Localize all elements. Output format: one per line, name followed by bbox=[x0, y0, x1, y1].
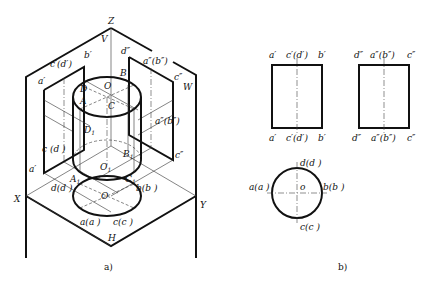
figure-b-orthographic: a′ c′(d′) b′ a′ c′(d′) b′ d″ a″(b″) c″ d… bbox=[249, 50, 416, 272]
point-o-label: O bbox=[104, 81, 112, 91]
h-label-cc1: c(c ) bbox=[113, 217, 133, 227]
point-o1-label: O1 bbox=[100, 162, 111, 173]
axis-y-label: Y bbox=[200, 200, 207, 210]
point-a-label: A bbox=[79, 96, 87, 106]
plane-frame-top-right bbox=[111, 28, 152, 51]
v-label-c1d1: c (d ) bbox=[42, 144, 66, 154]
w-label-c1: c″ bbox=[175, 150, 184, 160]
top-label-o: o bbox=[300, 182, 306, 192]
w-label-d: d″ bbox=[121, 46, 131, 56]
front-top-b: b′ bbox=[318, 50, 326, 60]
side-bottom-d1: d″ bbox=[352, 133, 362, 143]
plane-h-label: H bbox=[107, 233, 116, 243]
front-top-cd: c′(d′) bbox=[286, 50, 308, 60]
h-label-aa1: a(a ) bbox=[80, 217, 101, 227]
top-label-d: d(d ) bbox=[300, 158, 322, 168]
h-label-o: O bbox=[101, 191, 109, 201]
point-c1-label: C1 bbox=[125, 174, 136, 185]
v-label-a: a′ bbox=[38, 76, 45, 86]
side-top-ab: a″(b″) bbox=[370, 50, 395, 60]
front-bottom-c1d1: c′(d′) bbox=[286, 133, 308, 143]
point-b-label: B bbox=[119, 68, 127, 78]
top-label-c: c(c ) bbox=[300, 222, 320, 232]
plane-v-label: V bbox=[101, 34, 109, 44]
w-label-ab: a″(b″) bbox=[143, 56, 168, 66]
w-label-a1b1: a″(b″) bbox=[155, 116, 180, 126]
point-d-label: D bbox=[79, 84, 87, 94]
point-b1-label: B1 bbox=[122, 149, 133, 160]
front-bottom-b1: b′ bbox=[318, 133, 326, 143]
cylinder-projection-diagram: Z X Y V W H O B D A C D1 B1 O1 A1 C1 a′ … bbox=[0, 0, 428, 284]
figure-a-pictorial: Z X Y V W H O B D A C D1 B1 O1 A1 C1 a′ … bbox=[13, 16, 207, 272]
top-label-a: a(a ) bbox=[249, 182, 270, 192]
w-label-c: c″ bbox=[174, 72, 183, 82]
side-top-c: c″ bbox=[407, 50, 416, 60]
side-top-d: d″ bbox=[354, 50, 364, 60]
caption-b: b) bbox=[338, 262, 347, 272]
top-label-b: b(b ) bbox=[323, 182, 345, 192]
side-bottom-a1b1: a″(b″) bbox=[371, 133, 396, 143]
plane-w-label: W bbox=[183, 82, 193, 92]
axis-z-label: Z bbox=[107, 16, 115, 26]
axis-x-label: X bbox=[13, 194, 21, 204]
h-label-dd1: d(d ) bbox=[51, 183, 73, 193]
v-label-a1: a′ bbox=[29, 164, 36, 174]
v-label-cd: c′(d′) bbox=[50, 59, 72, 69]
point-d1-label: D1 bbox=[83, 125, 95, 136]
point-c-label: C bbox=[108, 101, 115, 111]
front-top-a: a′ bbox=[269, 50, 276, 60]
v-label-b: b′ bbox=[84, 50, 92, 60]
caption-a: a) bbox=[104, 262, 113, 272]
front-bottom-a1: a′ bbox=[269, 133, 276, 143]
side-bottom-c1: c″ bbox=[407, 133, 416, 143]
h-label-bb1: b(b ) bbox=[136, 183, 158, 193]
